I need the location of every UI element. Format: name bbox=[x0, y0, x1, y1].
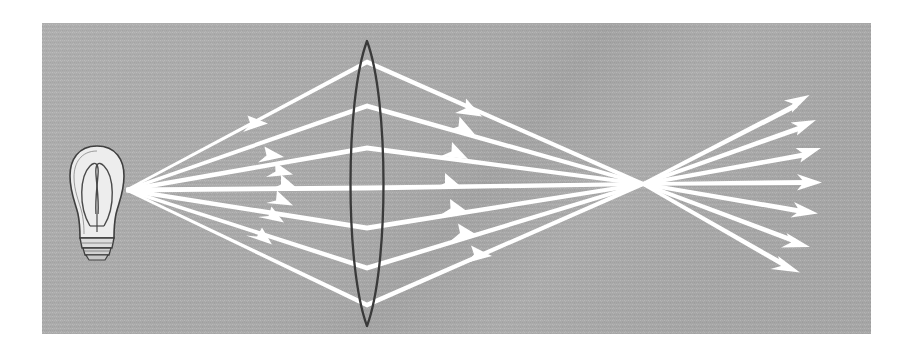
halftone-gray-plate bbox=[42, 23, 871, 334]
ray-diagram-figure: Converging lens ray diagram incident ray… bbox=[0, 0, 908, 363]
ray-diagram-canvas: Converging lens ray diagram bbox=[0, 0, 908, 363]
bulb-base-tip bbox=[86, 255, 108, 260]
bulb-base-thread bbox=[83, 248, 111, 255]
